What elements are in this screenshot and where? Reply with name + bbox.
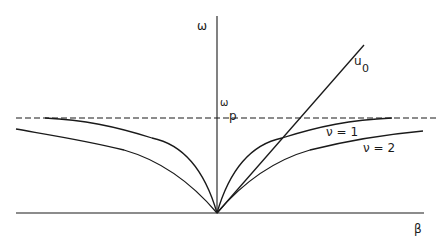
- nu-1-label: ν = 1: [326, 125, 358, 139]
- curve-nu-2-left: [16, 129, 217, 213]
- nu-2-label: ν = 2: [363, 141, 395, 155]
- omega-p-label-main: ω: [220, 97, 228, 108]
- beta-axis-label: β: [414, 222, 422, 236]
- u0-label-sub: 0: [362, 62, 369, 75]
- u0-label-main: u: [354, 54, 362, 68]
- omega-p-label-sub: p: [229, 109, 237, 123]
- curve-nu-1-left: [45, 118, 217, 213]
- omega-axis-label: ω: [197, 19, 207, 33]
- dispersion-diagram: ω β ω p u 0 ν = 1 ν = 2: [0, 0, 436, 238]
- curve-nu-1-right: [217, 118, 392, 213]
